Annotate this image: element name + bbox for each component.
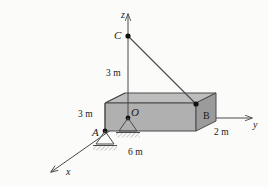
statics-diagram-figure: z y x C B O A 3 m 3 m 6 m 2 m [0, 0, 268, 187]
point-label-o: O [131, 107, 139, 118]
z-axis-label: z [121, 10, 125, 20]
point-label-a: A [92, 127, 99, 138]
dimension-label-oc: 3 m [106, 69, 121, 79]
diagram-canvas [0, 0, 268, 187]
point-label-c: C [114, 30, 121, 41]
point-marker-b [193, 101, 198, 106]
x-axis-label: x [66, 167, 70, 177]
y-axis-label: y [253, 120, 257, 130]
point-label-b: B [203, 111, 210, 121]
point-marker-c [125, 33, 130, 38]
slab-front-face [105, 103, 196, 131]
dimension-label-width: 2 m [214, 128, 229, 138]
dimension-label-slab-height: 3 m [78, 110, 93, 120]
dimension-label-length: 6 m [128, 148, 143, 158]
